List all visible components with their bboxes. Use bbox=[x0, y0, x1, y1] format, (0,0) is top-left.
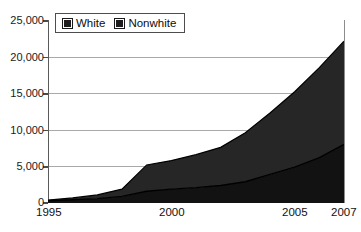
legend-label-white: White bbox=[76, 17, 105, 29]
xtick-label-2007: 2007 bbox=[331, 206, 357, 218]
ytick-label-20000: 20,000 bbox=[0, 51, 44, 63]
ytick-label-15000: 15,000 bbox=[0, 87, 44, 99]
black-square-swatch-icon bbox=[63, 19, 72, 28]
legend-entry-white[interactable]: White bbox=[63, 17, 105, 29]
black-square-swatch-icon bbox=[115, 19, 124, 28]
legend-label-nonwhite: Nonwhite bbox=[128, 17, 176, 29]
xtick-label-1995: 1995 bbox=[36, 206, 62, 218]
ytick-label-10000: 10,000 bbox=[0, 124, 44, 136]
chart-legend: White Nonwhite bbox=[55, 13, 185, 33]
ytick-label-5000: 5,000 bbox=[0, 160, 44, 172]
area-series-layer bbox=[48, 20, 344, 203]
stacked-area-chart: 25,000 20,000 15,000 10,000 5,000 0 1995… bbox=[0, 0, 361, 232]
xtick-label-2005: 2005 bbox=[282, 206, 308, 218]
ytick-label-25000: 25,000 bbox=[0, 14, 44, 26]
xtick-label-2000: 2000 bbox=[159, 206, 185, 218]
legend-entry-nonwhite[interactable]: Nonwhite bbox=[115, 17, 176, 29]
